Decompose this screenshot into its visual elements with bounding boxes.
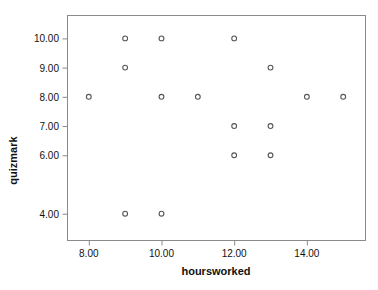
data-point	[123, 211, 128, 216]
data-point	[195, 94, 200, 99]
plot-canvas	[0, 0, 378, 290]
scatter-plot-figure: quizmark hoursworked 10.009.008.007.006.…	[0, 0, 378, 290]
data-point	[159, 211, 164, 216]
data-point	[86, 94, 91, 99]
data-point	[123, 65, 128, 70]
plot-frame	[68, 16, 366, 241]
data-point	[304, 94, 309, 99]
data-point	[232, 36, 237, 41]
data-point	[123, 36, 128, 41]
data-point-group	[86, 36, 345, 216]
data-point	[268, 65, 273, 70]
data-point	[232, 124, 237, 129]
data-point	[341, 94, 346, 99]
data-point	[268, 124, 273, 129]
data-point	[232, 153, 237, 158]
data-point	[159, 36, 164, 41]
data-point	[268, 153, 273, 158]
data-point	[159, 94, 164, 99]
